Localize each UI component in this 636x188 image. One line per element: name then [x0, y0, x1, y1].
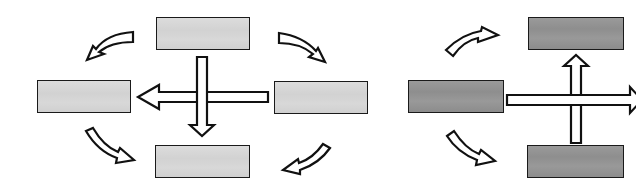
right-diagram-arrows — [380, 0, 636, 188]
left-diagram — [0, 0, 380, 188]
curved-arrow-top-left-icon — [87, 32, 133, 60]
curved-arrow-bottom-left-icon — [447, 131, 495, 165]
curved-arrow-top-right-icon — [279, 33, 325, 62]
curved-arrow-top-left-icon — [446, 27, 498, 56]
curved-arrow-bottom-left-icon — [86, 128, 134, 163]
curved-arrow-bottom-right-icon — [283, 144, 330, 174]
right-diagram — [380, 0, 636, 188]
left-diagram-arrows — [0, 0, 380, 188]
